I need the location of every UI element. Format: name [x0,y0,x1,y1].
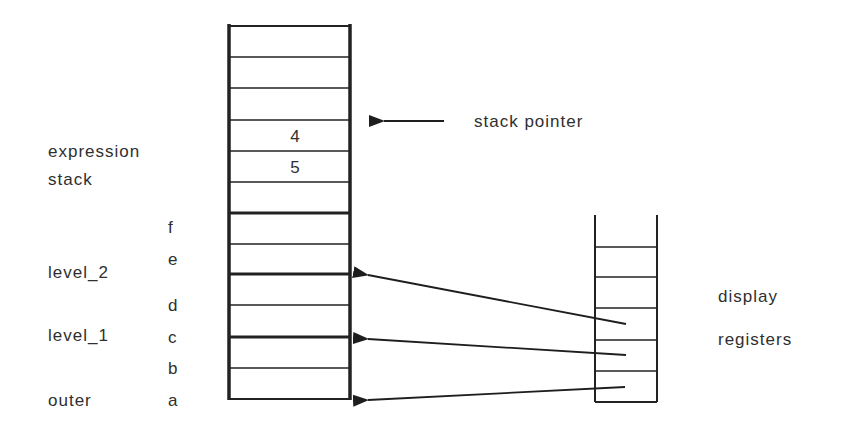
outer-label: outer [48,392,92,409]
diagram-canvas [0,0,854,430]
display-arrow-level-1 [368,339,626,355]
slot-label-b: b [168,360,178,377]
level-1-label: level_1 [48,327,109,344]
level-2-label: level_2 [48,264,109,281]
display-arrow-outer [368,387,625,400]
registers-label: registers [718,331,792,348]
slot-label-e: e [168,251,178,268]
slot-label-a: a [168,392,178,409]
stack-cell-value-5: 5 [285,159,305,176]
expression-stack-label: stack [48,171,93,188]
display-arrow-level-2 [368,275,626,324]
slot-label-d: d [168,297,178,314]
slot-label-c: c [168,329,178,346]
slot-label-f: f [168,219,174,236]
stack-cell-value-4: 4 [285,128,305,145]
runtime-stack [229,24,350,400]
expression-label: expression [48,143,140,160]
display-label: display [718,288,778,305]
stack-pointer-label: stack pointer [474,113,583,130]
display-registers-column [595,215,657,402]
